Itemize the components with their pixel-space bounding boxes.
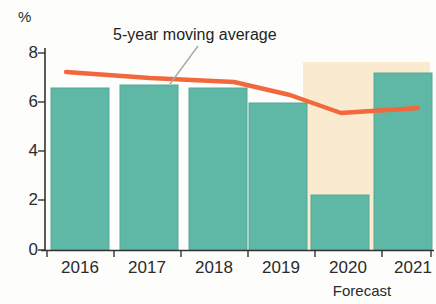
y-tick-label-0: 0 [10, 240, 38, 260]
bar-series [51, 73, 432, 250]
x-tick-label-2020: 2020 [315, 258, 381, 278]
y-tick-label-4: 4 [10, 141, 38, 161]
moving-average-annotation: 5-year moving average [113, 26, 277, 44]
x-tick-label-2021: 2021 [380, 258, 436, 278]
x-tick-label-2017: 2017 [114, 258, 180, 278]
forecast-caption: Forecast [302, 282, 422, 299]
bar-2016 [51, 88, 109, 250]
y-tick-label-6: 6 [10, 92, 38, 112]
y-tick-label-2: 2 [10, 190, 38, 210]
x-tick-label-2018: 2018 [181, 258, 247, 278]
bar-2018 [189, 88, 247, 250]
chart-container: % 8 6 4 2 0 2016 2017 2018 2019 2020 202… [0, 0, 436, 304]
y-axis-unit-label: % [18, 8, 32, 25]
x-tick-label-2019: 2019 [248, 258, 314, 278]
bar-2020 [311, 195, 369, 250]
y-tick-label-8: 8 [10, 43, 38, 63]
bar-2021 [374, 73, 432, 250]
bar-2017 [120, 85, 178, 250]
x-tick-label-2016: 2016 [47, 258, 113, 278]
bar-2019 [249, 103, 307, 250]
y-axis-ticks [38, 53, 45, 250]
